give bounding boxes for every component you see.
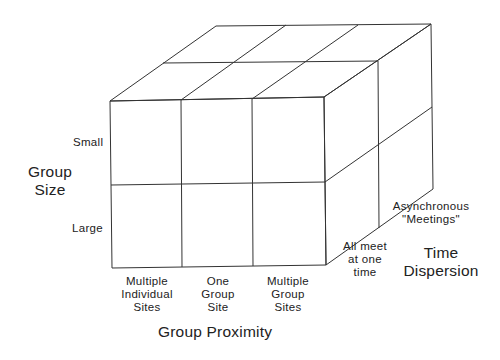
time-dispersion-title: Time Dispersion	[396, 244, 486, 280]
time-level-all-meet-at-one-time: All meet at one time	[335, 240, 395, 280]
proximity-level-one-group-site: One Group Site	[190, 275, 246, 315]
group-size-title-line2: Size	[20, 181, 80, 199]
time-level-1-line2: at one	[335, 253, 395, 266]
proximity-level-2-line1: One	[190, 275, 246, 288]
proximity-level-3-line2: Group	[258, 288, 318, 301]
time-level-1-line3: time	[335, 266, 395, 279]
front-divider-2	[252, 99, 253, 266]
proximity-level-3-line1: Multiple	[258, 275, 318, 288]
proximity-level-multiple-group-sites: Multiple Group Sites	[258, 275, 318, 315]
time-level-2-line2: "Meetings"	[388, 213, 474, 226]
time-level-2-line1: Asynchronous	[388, 200, 474, 213]
group-size-large-label: Large	[72, 222, 103, 235]
group-size-title-line1: Group	[20, 163, 80, 181]
top-depth-mid	[163, 61, 378, 63]
proximity-level-1-line1: Multiple	[114, 275, 180, 288]
time-dispersion-title-line1: Time	[396, 244, 486, 262]
proximity-level-multiple-individual-sites: Multiple Individual Sites	[114, 275, 180, 315]
group-size-small-label: Small	[73, 136, 103, 149]
time-level-1-line1: All meet	[335, 240, 395, 253]
proximity-level-2-line3: Site	[190, 301, 246, 314]
proximity-level-3-line3: Sites	[258, 301, 318, 314]
group-size-title: Group Size	[20, 163, 80, 199]
proximity-level-2-line2: Group	[190, 288, 246, 301]
front-divider-1	[181, 100, 182, 267]
time-dispersion-title-line2: Dispersion	[396, 262, 486, 280]
proximity-level-1-line3: Sites	[114, 301, 180, 314]
group-proximity-title: Group Proximity	[158, 323, 272, 341]
time-level-asynchronous-meetings: Asynchronous "Meetings"	[388, 200, 474, 226]
proximity-level-1-line2: Individual	[114, 288, 180, 301]
front-divider-size	[111, 182, 325, 185]
